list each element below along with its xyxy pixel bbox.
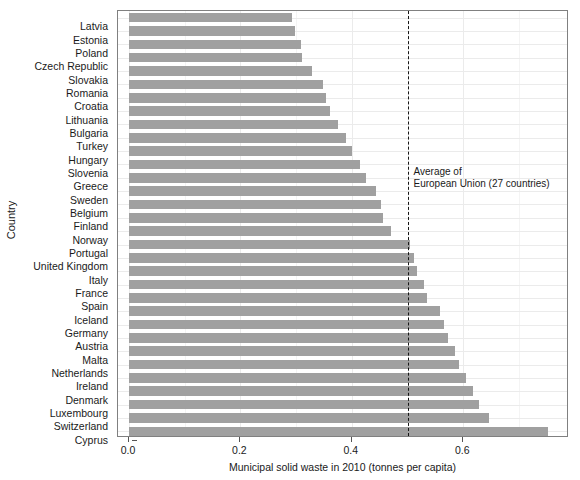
- y-tick-label-czech-republic: Czech Republic: [20, 61, 108, 72]
- x-tick-label-0.6: 0.6: [455, 444, 470, 456]
- bar-norway: [129, 226, 391, 236]
- y-tick-label-romania: Romania: [20, 88, 108, 99]
- y-tick-label-norway: Norway: [20, 235, 108, 246]
- eu-average-annotation-line2: European Union (27 countries): [414, 178, 550, 191]
- bar-denmark: [129, 386, 473, 396]
- bar-greece: [129, 173, 366, 183]
- bar-united-kingdom: [129, 253, 414, 263]
- y-tick-label-spain: Spain: [20, 301, 108, 312]
- y-tick-label-ireland: Ireland: [20, 381, 108, 392]
- y-tick-label-netherlands: Netherlands: [20, 368, 108, 379]
- x-tick-mark-1: [239, 437, 240, 442]
- y-axis-title-text: Country: [5, 201, 17, 240]
- bar-romania: [129, 80, 323, 90]
- bar-luxembourg: [129, 400, 479, 410]
- bar-portugal: [129, 240, 410, 250]
- bar-belgium: [129, 200, 381, 210]
- bar-germany: [129, 320, 444, 330]
- y-tick-label-lithuania: Lithuania: [20, 115, 108, 126]
- x-tick-mark-0: [128, 437, 129, 442]
- y-tick-label-united-kingdom: United Kingdom: [20, 261, 108, 272]
- y-tick-label-cyprus: Cyprus: [20, 435, 108, 446]
- bar-poland: [129, 40, 301, 50]
- bar-hungary: [129, 146, 352, 156]
- bar-italy: [129, 266, 417, 276]
- bar-austria: [129, 333, 448, 343]
- x-tick-label-0.2: 0.2: [232, 444, 247, 456]
- y-tick-label-malta: Malta: [20, 355, 108, 366]
- x-axis-tick-labels: 0.00.20.40.6: [117, 444, 568, 458]
- y-tick-label-switzerland: Switzerland: [20, 421, 108, 432]
- y-tick-label-iceland: Iceland: [20, 315, 108, 326]
- y-tick-label-slovakia: Slovakia: [20, 75, 108, 86]
- y-tick-label-turkey: Turkey: [20, 141, 108, 152]
- y-tick-label-hungary: Hungary: [20, 155, 108, 166]
- y-axis-title: Country: [0, 0, 22, 440]
- bar-turkey: [129, 133, 346, 143]
- bar-switzerland: [129, 413, 489, 423]
- y-tick-label-belgium: Belgium: [20, 208, 108, 219]
- y-tick-label-greece: Greece: [20, 181, 108, 192]
- eu-average-reference-line: [408, 11, 409, 436]
- y-tick-label-austria: Austria: [20, 341, 108, 352]
- y-axis-tick-labels: LatviaEstoniaPolandCzech RepublicSlovaki…: [20, 10, 108, 437]
- bar-france: [129, 280, 424, 290]
- x-tick-mark-3: [462, 437, 463, 442]
- y-tick-label-bulgaria: Bulgaria: [20, 128, 108, 139]
- bar-bulgaria: [129, 120, 338, 130]
- x-tick-mark-2: [351, 437, 352, 442]
- bar-finland: [129, 213, 383, 223]
- y-tick-label-germany: Germany: [20, 328, 108, 339]
- bar-slovenia: [129, 160, 360, 170]
- eu-average-annotation-line1: Average of: [414, 166, 550, 179]
- x-tick-label-0.0: 0.0: [121, 444, 136, 456]
- y-tick-label-croatia: Croatia: [20, 101, 108, 112]
- y-tick-label-italy: Italy: [20, 275, 108, 286]
- plot-area: Average of European Union (27 countries): [117, 10, 568, 437]
- y-tick-label-poland: Poland: [20, 48, 108, 59]
- bar-netherlands: [129, 360, 459, 370]
- gridline-vertical-minor-3: [519, 11, 520, 436]
- y-tick-label-latvia: Latvia: [20, 21, 108, 32]
- bar-malta: [129, 346, 455, 356]
- y-tick-label-luxembourg: Luxembourg: [20, 408, 108, 419]
- bar-estonia: [129, 26, 295, 36]
- bar-czech-republic: [129, 53, 302, 63]
- y-tick-label-denmark: Denmark: [20, 395, 108, 406]
- bar-ireland: [129, 373, 466, 383]
- y-tick-label-france: France: [20, 288, 108, 299]
- bar-lithuania: [129, 106, 330, 116]
- bar-slovakia: [129, 66, 312, 76]
- y-tick-label-sweden: Sweden: [20, 195, 108, 206]
- bar-spain: [129, 293, 427, 303]
- y-tick-label-finland: Finland: [20, 221, 108, 232]
- x-axis-tick-marks: [117, 437, 568, 443]
- y-tick-label-estonia: Estonia: [20, 35, 108, 46]
- bar-iceland: [129, 306, 440, 316]
- y-tick-label-slovenia: Slovenia: [20, 168, 108, 179]
- bar-latvia: [129, 13, 292, 23]
- eu-average-annotation: Average of European Union (27 countries): [414, 166, 550, 191]
- bar-cyprus: [129, 427, 548, 437]
- x-axis-title: Municipal solid waste in 2010 (tonnes pe…: [117, 461, 568, 473]
- bar-chart: Country LatviaEstoniaPolandCzech Republi…: [0, 0, 580, 480]
- y-tick-label-portugal: Portugal: [20, 248, 108, 259]
- x-tick-label-0.4: 0.4: [343, 444, 358, 456]
- bar-croatia: [129, 93, 326, 103]
- bar-sweden: [129, 186, 376, 196]
